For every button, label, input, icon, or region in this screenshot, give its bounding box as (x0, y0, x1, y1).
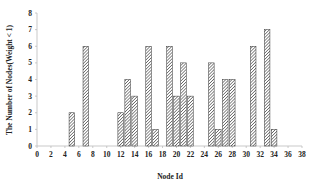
y-tick-label: 4 (28, 75, 32, 84)
x-axis: 02468101214161820222426283032343638 (35, 146, 306, 159)
x-tick-label: 4 (63, 150, 67, 159)
x-tick-label: 2 (49, 150, 53, 159)
x-tick-label: 24 (201, 150, 209, 159)
bar-node-13 (125, 80, 131, 147)
bar-node-20 (174, 96, 180, 146)
x-tick-label: 14 (131, 150, 139, 159)
x-tick-label: 12 (117, 150, 125, 159)
chart-canvas: 012345678 024681012141618202224262830323… (0, 0, 317, 184)
bar-node-5 (69, 113, 75, 146)
y-axis: 012345678 (28, 9, 37, 151)
y-tick-label: 1 (28, 125, 32, 134)
x-tick-label: 36 (284, 150, 292, 159)
x-axis-title: Node Id (157, 172, 183, 181)
x-tick-label: 34 (270, 150, 278, 159)
x-tick-label: 32 (256, 150, 264, 159)
x-tick-label: 28 (229, 150, 237, 159)
bar-node-34 (271, 129, 277, 146)
x-tick-label: 16 (145, 150, 153, 159)
bar-node-27 (222, 80, 228, 147)
x-tick-label: 18 (159, 150, 167, 159)
y-tick-label: 7 (28, 25, 32, 34)
y-tick-label: 2 (28, 108, 32, 117)
x-tick-label: 26 (215, 150, 223, 159)
x-tick-label: 30 (242, 150, 250, 159)
bar-node-22 (188, 96, 194, 146)
bar-node-21 (181, 63, 187, 146)
bar-node-28 (229, 80, 235, 147)
bar-node-19 (167, 46, 173, 146)
x-tick-label: 6 (77, 150, 81, 159)
x-tick-label: 0 (35, 150, 39, 159)
x-tick-label: 22 (187, 150, 195, 159)
y-axis-title: The Number of Nodes(Weight < 1) (5, 24, 14, 135)
bar-node-12 (118, 113, 124, 146)
bar-node-7 (83, 46, 89, 146)
bar-chart: 012345678 024681012141618202224262830323… (0, 0, 317, 184)
bar-node-25 (209, 63, 215, 146)
bar-node-26 (216, 129, 222, 146)
y-tick-label: 6 (28, 42, 32, 51)
bar-node-33 (264, 30, 270, 146)
y-tick-label: 3 (28, 92, 32, 101)
y-tick-label: 8 (28, 9, 32, 18)
x-tick-label: 38 (298, 150, 306, 159)
bar-node-31 (250, 46, 256, 146)
x-tick-label: 20 (173, 150, 181, 159)
x-tick-label: 10 (103, 150, 111, 159)
bar-node-17 (153, 129, 159, 146)
x-tick-label: 8 (91, 150, 95, 159)
bar-node-16 (146, 46, 152, 146)
bar-series (69, 30, 277, 146)
y-tick-label: 5 (28, 58, 32, 67)
y-tick-label: 0 (28, 142, 32, 151)
bar-node-14 (132, 96, 138, 146)
